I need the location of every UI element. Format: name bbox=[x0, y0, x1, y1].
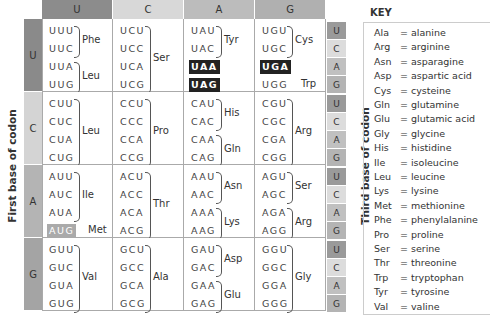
third-base-A: A bbox=[327, 131, 346, 149]
codon-AGA: AGA bbox=[260, 206, 289, 220]
key-name: = proline bbox=[400, 229, 444, 240]
codon-CUG: CUG bbox=[47, 151, 76, 165]
key-item-met: Met= methionine bbox=[374, 200, 465, 211]
key-abbr: Phe bbox=[374, 214, 400, 225]
second-base-header-G: G bbox=[255, 0, 326, 19]
amino-acid-Arg: Arg bbox=[295, 216, 312, 227]
amino-acid-His: His bbox=[224, 107, 240, 118]
key-item-ile: Ile= isoleucine bbox=[374, 157, 459, 168]
codon-AAU: AAU bbox=[189, 170, 218, 184]
brace-Leu bbox=[74, 99, 80, 167]
third-base-A: A bbox=[327, 204, 346, 222]
codon-UGG: UGG bbox=[260, 78, 290, 92]
amino-acid-Met: Met bbox=[88, 224, 107, 235]
key-abbr: Glu bbox=[374, 113, 400, 124]
codon-UAU: UAU bbox=[189, 24, 218, 38]
key-name: = valine bbox=[400, 301, 440, 312]
codon-UUC: UUC bbox=[47, 42, 76, 56]
codon-ACG: ACG bbox=[118, 224, 147, 238]
codon-CCG: CCG bbox=[118, 151, 147, 165]
codon-GAG: GAG bbox=[189, 297, 219, 311]
amino-acid-Asn: Asn bbox=[224, 180, 242, 191]
key-item-phe: Phe= phenylalanine bbox=[374, 214, 478, 225]
third-base-U: U bbox=[327, 168, 346, 186]
brace-Pro bbox=[145, 99, 151, 167]
codon-CUA: CUA bbox=[47, 133, 76, 147]
codon-CGA: CGA bbox=[260, 133, 289, 147]
key-item-val: Val= valine bbox=[374, 301, 440, 312]
brace-Ala bbox=[145, 245, 151, 313]
brace-Gln bbox=[216, 135, 222, 167]
codon-CCA: CCA bbox=[118, 133, 146, 147]
third-base-A: A bbox=[327, 58, 346, 76]
key-item-cys: Cys= cysteine bbox=[374, 85, 451, 96]
codon-GGG: GGG bbox=[260, 297, 291, 311]
brace-Ile bbox=[74, 172, 80, 222]
amino-acid-Trp: Trp bbox=[301, 78, 316, 89]
first-base-A: A bbox=[24, 165, 42, 238]
amino-acid-Ser: Ser bbox=[153, 52, 170, 63]
codon-AAA: AAA bbox=[189, 206, 218, 220]
third-base-G: G bbox=[327, 222, 346, 240]
third-base-C: C bbox=[327, 40, 346, 58]
key-abbr: Pro bbox=[374, 229, 400, 240]
third-base-A: A bbox=[327, 277, 346, 295]
codon-CGU: CGU bbox=[260, 97, 289, 111]
codon-GUA: GUA bbox=[47, 279, 76, 293]
codon-UUA: UUA bbox=[47, 60, 76, 74]
codon-UUU: UUU bbox=[47, 24, 76, 38]
key-abbr: Asn bbox=[374, 56, 400, 67]
codon-AGG: AGG bbox=[260, 224, 290, 238]
codon-AAC: AAC bbox=[189, 188, 217, 202]
second-base-header-C: C bbox=[113, 0, 184, 19]
key-abbr: Tyr bbox=[374, 286, 400, 297]
amino-acid-Lys: Lys bbox=[224, 216, 240, 227]
key-name: = threonine bbox=[400, 257, 457, 268]
codon-CUC: CUC bbox=[47, 115, 76, 129]
codon-CUU: CUU bbox=[47, 97, 76, 111]
key-item-his: His= histidine bbox=[374, 142, 452, 153]
key-name: = glycine bbox=[400, 128, 445, 139]
key-name: = isoleucine bbox=[400, 157, 459, 168]
second-base-header-U: U bbox=[42, 0, 113, 19]
codon-GUC: GUC bbox=[47, 261, 76, 275]
codon-UGU: UGU bbox=[260, 24, 290, 38]
brace-Thr bbox=[145, 172, 151, 240]
codon-UGA: UGA bbox=[260, 60, 291, 74]
key-abbr: Cys bbox=[374, 85, 400, 96]
key-name: = aspartic acid bbox=[400, 70, 472, 81]
key-item-glu: Glu= glutamic acid bbox=[374, 113, 475, 124]
codon-ACC: ACC bbox=[118, 188, 146, 202]
key-abbr: Ser bbox=[374, 243, 400, 254]
amino-acid-Phe: Phe bbox=[82, 34, 101, 45]
amino-acid-Gly: Gly bbox=[295, 271, 311, 282]
key-abbr: Ala bbox=[374, 27, 400, 38]
codon-GAC: GAC bbox=[189, 261, 218, 275]
codon-CCU: CCU bbox=[118, 97, 147, 111]
codon-CAC: CAC bbox=[189, 115, 217, 129]
codon-CGG: CGG bbox=[260, 151, 290, 165]
brace-Asp bbox=[216, 245, 222, 277]
amino-acid-Leu: Leu bbox=[82, 70, 100, 81]
brace-Tyr bbox=[216, 26, 222, 58]
key-item-asp: Asp= aspartic acid bbox=[374, 70, 472, 81]
codon-AGU: AGU bbox=[260, 170, 289, 184]
third-base-U: U bbox=[327, 241, 346, 259]
key-box: Ala= alanineArg= arginineAsn= asparagine… bbox=[363, 22, 490, 315]
key-abbr: Arg bbox=[374, 41, 400, 52]
codon-UUG: UUG bbox=[47, 78, 77, 92]
key-item-tyr: Tyr= tyrosine bbox=[374, 286, 449, 297]
brace-Ser bbox=[145, 26, 151, 94]
codon-CGC: CGC bbox=[260, 115, 289, 129]
key-abbr: Gly bbox=[374, 128, 400, 139]
key-abbr: Thr bbox=[374, 257, 400, 268]
codon-AUC: AUC bbox=[47, 188, 76, 202]
key-name: = glutamic acid bbox=[400, 113, 475, 124]
key-item-gly: Gly= glycine bbox=[374, 128, 445, 139]
codon-UCU: UCU bbox=[118, 24, 147, 38]
first-base-G: G bbox=[24, 238, 42, 311]
key-name: = arginine bbox=[400, 41, 450, 52]
codon-GCG: GCG bbox=[118, 297, 148, 311]
key-abbr: Lys bbox=[374, 185, 400, 196]
third-base-C: C bbox=[327, 259, 346, 277]
